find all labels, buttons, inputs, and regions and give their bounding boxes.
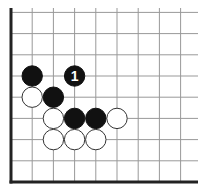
black-stone <box>64 108 84 128</box>
black-stone <box>22 66 42 86</box>
black-stone: 1 <box>64 66 84 86</box>
white-stone <box>86 129 106 149</box>
white-stone <box>43 108 63 128</box>
white-stone <box>64 129 84 149</box>
white-stone <box>22 87 42 107</box>
move-number-label: 1 <box>71 68 79 84</box>
black-stone <box>86 108 106 128</box>
white-stone <box>107 108 127 128</box>
black-stone <box>43 87 63 107</box>
stones-layer: 1 <box>22 66 127 150</box>
white-stone <box>43 129 63 149</box>
go-board: 1 <box>0 0 208 193</box>
